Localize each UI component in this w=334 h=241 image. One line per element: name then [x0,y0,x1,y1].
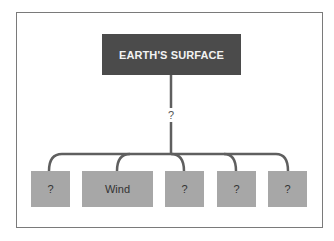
child-node-label: ? [233,183,239,195]
child-node-label: ? [47,183,53,195]
root-node-label: EARTH'S SURFACE [119,49,224,61]
child-node-label: ? [284,183,290,195]
child-node-4: ? [217,171,256,207]
branch-child-4 [224,154,236,171]
child-node-3: ? [165,171,204,207]
branch-child-3 [171,154,184,171]
child-node-label: ? [181,183,187,195]
child-node-5: ? [268,171,307,207]
root-node-earths-surface: EARTH'S SURFACE [102,34,241,75]
connector-question-label: ? [165,108,177,122]
child-node-1: ? [31,171,70,207]
child-node-wind: Wind [82,171,153,207]
branch-wind [117,154,130,171]
child-node-label: Wind [105,183,130,195]
branch-bar [49,154,288,171]
